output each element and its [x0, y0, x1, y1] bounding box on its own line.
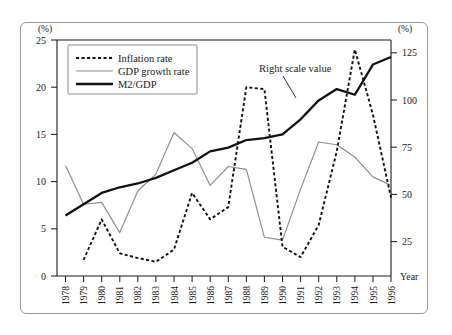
y-left-tick-25: 25 — [36, 35, 46, 46]
x-axis-label: Year — [400, 271, 419, 282]
chart-figure: 25 20 15 10 5 0 (%) 125 100 75 50 25 (%) — [0, 0, 452, 335]
x-label-1981: 1981 — [115, 286, 125, 305]
x-label-1983: 1983 — [151, 286, 161, 305]
y-left-tick-5: 5 — [41, 223, 46, 234]
y-left-tick-20: 20 — [36, 82, 46, 93]
y-left-tick-15: 15 — [36, 129, 46, 140]
y-right-tick-25: 25 — [402, 236, 412, 247]
x-axis-ticks — [66, 276, 392, 282]
line-chart-canvas: 25 20 15 10 5 0 (%) 125 100 75 50 25 (%) — [0, 0, 452, 335]
y-right-tick-125: 125 — [402, 47, 417, 58]
x-label-1985: 1985 — [188, 286, 198, 305]
x-label-1989: 1989 — [260, 286, 270, 305]
x-label-1987: 1987 — [224, 286, 234, 305]
x-label-1984: 1984 — [170, 286, 180, 305]
y-right-tick-50: 50 — [402, 189, 412, 200]
y-axis-right-ticks: 125 100 75 50 25 (%) — [391, 24, 417, 247]
legend-label-m2-gdp: M2/GDP — [118, 79, 157, 90]
y-left-unit-label: (%) — [38, 24, 52, 35]
annotation-right-scale-value: Right scale value — [259, 63, 332, 98]
x-label-1982: 1982 — [133, 286, 143, 305]
x-label-1994: 1994 — [350, 286, 360, 305]
legend-label-inflation-rate: Inflation rate — [118, 53, 173, 64]
x-label-1991: 1991 — [296, 286, 306, 305]
x-label-1992: 1992 — [314, 286, 324, 305]
annotation-label: Right scale value — [259, 63, 332, 74]
y-axis-left-ticks: 25 20 15 10 5 0 (%) — [36, 24, 57, 282]
x-label-1995: 1995 — [369, 286, 379, 305]
x-label-1986: 1986 — [206, 286, 216, 305]
x-label-1996: 1996 — [387, 286, 397, 305]
x-label-1988: 1988 — [242, 286, 252, 305]
y-right-tick-100: 100 — [402, 95, 417, 106]
y-right-unit-label: (%) — [398, 24, 412, 35]
chart-legend: Inflation rate GDP growth rate M2/GDP — [68, 45, 197, 94]
y-left-tick-0: 0 — [41, 271, 46, 282]
y-left-tick-10: 10 — [36, 176, 46, 187]
legend-label-gdp-growth-rate: GDP growth rate — [118, 66, 190, 77]
x-label-1993: 1993 — [332, 286, 342, 305]
y-right-tick-75: 75 — [402, 142, 412, 153]
annotation-leader-line — [283, 76, 296, 98]
x-label-1980: 1980 — [97, 286, 107, 305]
x-label-1979: 1979 — [79, 286, 89, 305]
x-label-1978: 1978 — [61, 286, 71, 305]
x-label-1990: 1990 — [278, 286, 288, 305]
